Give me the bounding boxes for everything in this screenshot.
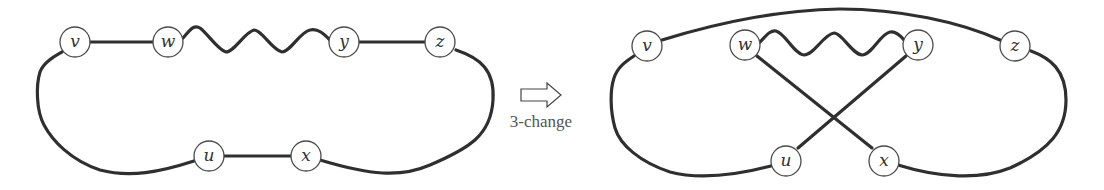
svg-text:y: y [912, 34, 923, 54]
transition-label: 3-change [510, 112, 572, 131]
node-w: w [153, 27, 183, 57]
node-u: u [771, 146, 801, 176]
right-arrow-icon [521, 83, 561, 107]
edge-z-x-path [320, 50, 493, 173]
svg-text:v: v [70, 31, 80, 51]
tour-before: v w y z u x [37, 27, 493, 174]
node-w: w [730, 30, 760, 60]
node-z: z [425, 27, 455, 57]
svg-text:z: z [435, 31, 446, 51]
svg-text:w: w [161, 31, 176, 51]
edge-u-v-path [611, 56, 771, 176]
svg-text:z: z [1010, 35, 1021, 55]
transition: 3-change [510, 83, 572, 131]
tour-after: v w y z u x [611, 9, 1066, 176]
node-y: y [329, 27, 359, 57]
svg-text:v: v [642, 35, 652, 55]
edge-u-v-path [37, 52, 194, 174]
edge-z-x-path [898, 51, 1066, 176]
node-v: v [60, 27, 90, 57]
node-u: u [194, 141, 224, 171]
svg-text:u: u [204, 145, 215, 165]
edge-w-y-zigzag [183, 27, 330, 52]
three-change-diagram: v w y z u x 3-change v w y z u x [0, 0, 1104, 190]
node-z: z [1000, 31, 1030, 61]
svg-text:u: u [781, 150, 792, 170]
node-x: x [291, 141, 321, 171]
svg-text:x: x [879, 150, 889, 170]
svg-text:y: y [338, 31, 349, 51]
edge-w-y-zigzag [760, 31, 904, 55]
svg-text:w: w [738, 34, 753, 54]
node-x: x [869, 146, 899, 176]
node-v: v [632, 31, 662, 61]
node-y: y [903, 30, 933, 60]
svg-text:x: x [301, 145, 311, 165]
